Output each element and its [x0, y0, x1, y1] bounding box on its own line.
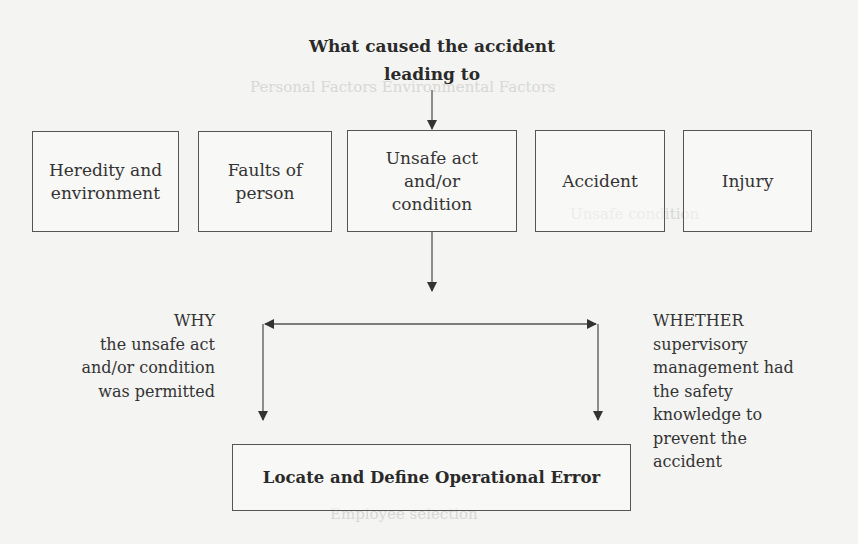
connector-arrows: [0, 0, 858, 544]
